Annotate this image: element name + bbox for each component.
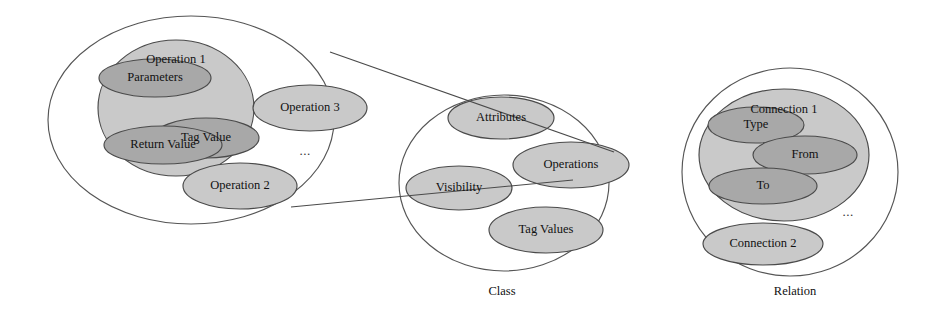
label-operation-1: Operation 1 xyxy=(146,52,205,66)
caption-class-cluster: Class xyxy=(488,284,515,298)
label-parameters: Parameters xyxy=(127,70,183,84)
label-type: Type xyxy=(744,117,769,131)
diagram-canvas: Operation 1ParametersTag ValueReturn Val… xyxy=(0,0,935,323)
label-connection-2: Connection 2 xyxy=(729,236,796,250)
label-return-value: Return Value xyxy=(130,137,196,151)
label-operation-3: Operation 3 xyxy=(280,100,339,114)
set-diagram: Operation 1ParametersTag ValueReturn Val… xyxy=(0,0,935,323)
caption-relation-cluster: Relation xyxy=(774,284,817,298)
label-attributes: Attributes xyxy=(476,110,526,124)
label-connection-1: Connection 1 xyxy=(750,102,817,116)
label-operations: Operations xyxy=(544,157,599,171)
label-operation-2: Operation 2 xyxy=(210,178,269,192)
relation-cluster-ellipsis-mark: ... xyxy=(842,204,853,219)
label-tag-values: Tag Values xyxy=(519,222,574,236)
label-visibility: Visibility xyxy=(436,180,483,194)
operation-cluster-ellipsis-mark: ... xyxy=(299,143,310,158)
label-from: From xyxy=(791,147,818,161)
label-to: To xyxy=(756,178,769,192)
